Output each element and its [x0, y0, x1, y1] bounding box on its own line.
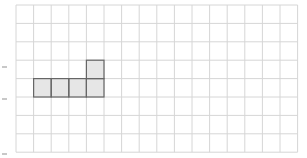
shaded-cell — [86, 60, 104, 78]
grid-diagram — [0, 0, 307, 158]
side-marker — [2, 66, 7, 68]
shaded-cell — [34, 79, 52, 97]
shaded-cell — [69, 79, 87, 97]
side-marker — [2, 153, 7, 155]
shaded-cell — [86, 79, 104, 97]
side-marker — [2, 98, 7, 100]
shaded-cell — [51, 79, 69, 97]
